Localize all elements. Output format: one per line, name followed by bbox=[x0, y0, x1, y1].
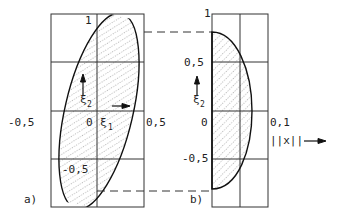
figure-svg: 1 -0,5 0 0,5 -0,5 ξ 2 ξ 1 a) 1 0,5 0 -0,… bbox=[0, 0, 346, 223]
panel-b-y-bottom-label: -0,5 bbox=[182, 152, 209, 165]
panel-a-axis-x-symbol: ξ bbox=[100, 116, 107, 129]
panel-b-label: b) bbox=[190, 193, 203, 206]
panel-a-axis-y-sub: 2 bbox=[87, 100, 92, 109]
panel-b-y-top-label: 1 bbox=[204, 7, 211, 20]
panel-a-axis-y-symbol: ξ bbox=[80, 93, 87, 106]
figure-canvas: 1 -0,5 0 0,5 -0,5 ξ 2 ξ 1 a) 1 0,5 0 -0,… bbox=[0, 0, 346, 223]
panel-a-x-right-label: 0,5 bbox=[146, 116, 166, 129]
panel-a-y-top-label: 1 bbox=[85, 14, 92, 27]
panel-b-axis-x-label: ||x|| bbox=[270, 134, 303, 147]
panel-b-y-mid-label: 0,5 bbox=[184, 56, 204, 69]
panel-b-axis-y-symbol: ξ bbox=[193, 93, 200, 106]
panel-b-axis-y-sub: 2 bbox=[200, 100, 205, 109]
panel-a-y-bottom-label: -0,5 bbox=[62, 163, 89, 176]
panel-b-curve bbox=[212, 32, 252, 189]
panel-a-label: a) bbox=[24, 193, 37, 206]
panel-a-x-left-label: -0,5 bbox=[8, 116, 35, 129]
panel-b-origin-label: 0 bbox=[201, 116, 208, 129]
panel-b-x-right-label: 0,1 bbox=[270, 116, 290, 129]
panel-a-axis-x-sub: 1 bbox=[108, 123, 113, 132]
panel-a-origin-label: 0 bbox=[86, 116, 93, 129]
